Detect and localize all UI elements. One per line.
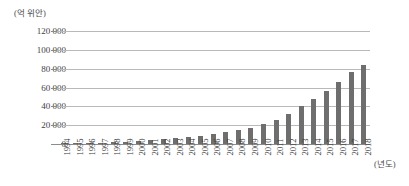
- x-axis-tick-slot: 2015: [320, 146, 333, 180]
- bar-slot: [257, 31, 270, 144]
- bar-slot: [332, 31, 345, 144]
- x-axis-tick-slot: 2007: [220, 146, 233, 180]
- x-axis-tick-group: 1994199519961997199819992000200120022003…: [57, 146, 370, 180]
- bar-slot: [345, 31, 358, 144]
- bar-slot: [107, 31, 120, 144]
- x-axis-tick-slot: 1995: [70, 146, 83, 180]
- bar-slot: [232, 31, 245, 144]
- bar-slot: [170, 31, 183, 144]
- bar-slot: [195, 31, 208, 144]
- bar-slot: [120, 31, 133, 144]
- x-axis-tick-slot: 1997: [95, 146, 108, 180]
- bar-slot: [182, 31, 195, 144]
- bar-slot: [282, 31, 295, 144]
- bar-slot: [307, 31, 320, 144]
- x-axis-tick-slot: 2003: [170, 146, 183, 180]
- bar-slot: [220, 31, 233, 144]
- bar-slot: [357, 31, 370, 144]
- x-axis-tick-slot: 2001: [145, 146, 158, 180]
- x-axis-tick-slot: 2000: [132, 146, 145, 180]
- x-axis-tick-slot: 2012: [282, 146, 295, 180]
- x-axis-tick-slot: 2002: [157, 146, 170, 180]
- bar-chart: (억 위안) 120 000100 00080 00060 00040 0002…: [0, 0, 409, 186]
- x-axis-tick-slot: 2009: [245, 146, 258, 180]
- bar-slot: [295, 31, 308, 144]
- x-axis-tick-slot: 2011: [270, 146, 283, 180]
- bar-slot: [145, 31, 158, 144]
- x-axis-tick-slot: 2017: [345, 146, 358, 180]
- bar-slot: [57, 31, 70, 144]
- bar-slot: [207, 31, 220, 144]
- bar: [324, 91, 329, 144]
- bar-group: [57, 31, 370, 144]
- x-axis-tick-slot: 1996: [82, 146, 95, 180]
- bar: [311, 99, 316, 144]
- bar: [336, 82, 341, 144]
- bar-slot: [157, 31, 170, 144]
- x-axis-tick-slot: 1994: [57, 146, 70, 180]
- x-axis-unit-label: (년도): [374, 160, 396, 169]
- x-axis-tick-slot: 2004: [182, 146, 195, 180]
- bar-slot: [245, 31, 258, 144]
- bar-slot: [320, 31, 333, 144]
- x-axis-tick-slot: 2005: [195, 146, 208, 180]
- bar-slot: [70, 31, 83, 144]
- x-axis-tick-slot: 2016: [332, 146, 345, 180]
- x-axis-tick-slot: 1999: [120, 146, 133, 180]
- x-axis-tick-slot: 1998: [107, 146, 120, 180]
- y-axis-unit-label: (억 위안): [14, 6, 46, 18]
- x-axis-tick-slot: 2006: [207, 146, 220, 180]
- bar-slot: [95, 31, 108, 144]
- bar-slot: [270, 31, 283, 144]
- x-axis-tick-slot: 2014: [307, 146, 320, 180]
- bar: [361, 65, 366, 144]
- x-axis-tick-slot: 2008: [232, 146, 245, 180]
- x-axis-tick-slot: 2010: [257, 146, 270, 180]
- x-axis-tick-slot: 2013: [295, 146, 308, 180]
- bar-slot: [132, 31, 145, 144]
- x-axis-tick-slot: 2018: [357, 146, 370, 180]
- plot-area: [57, 31, 370, 144]
- bar: [349, 72, 354, 145]
- x-axis-tick-label: 2018: [364, 139, 373, 156]
- bar-slot: [82, 31, 95, 144]
